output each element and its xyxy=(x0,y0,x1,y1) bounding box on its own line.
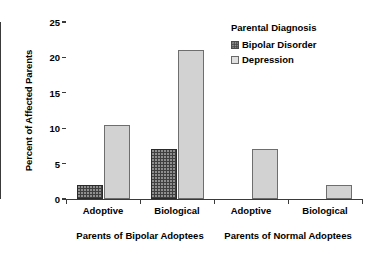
x-tick-mark xyxy=(66,199,67,204)
y-tick-label: 20 xyxy=(49,52,60,63)
bar xyxy=(326,185,352,199)
x-category-label: Adoptive xyxy=(231,205,272,216)
bar xyxy=(77,185,103,199)
x-category-label: Biological xyxy=(154,205,199,216)
legend-title: Parental Diagnosis xyxy=(231,22,381,33)
bar xyxy=(104,125,130,199)
bar xyxy=(151,149,177,199)
x-group-label: Parents of Normal Adoptees xyxy=(224,230,351,241)
x-category-label: Adoptive xyxy=(83,205,124,216)
y-tick-label: 25 xyxy=(49,17,60,28)
y-tick-label: 10 xyxy=(49,123,60,134)
bar xyxy=(252,149,278,199)
y-axis-title: Percent of Affected Parents xyxy=(23,21,34,201)
x-group-label: Parents of Bipolar Adoptees xyxy=(76,230,203,241)
bar xyxy=(178,50,204,199)
x-tick-mark xyxy=(214,199,215,204)
legend-item-label: Depression xyxy=(242,54,294,65)
x-tick-mark xyxy=(362,199,363,204)
legend-swatch-bipolar-icon xyxy=(231,41,239,49)
legend-item-label: Bipolar Disorder xyxy=(242,39,316,50)
y-tick-label: 0 xyxy=(55,194,60,205)
y-axis-line xyxy=(0,22,1,199)
y-tick-label: 5 xyxy=(55,158,60,169)
x-category-label: Biological xyxy=(302,205,347,216)
y-tick-label: 15 xyxy=(49,87,60,98)
legend-item: Bipolar Disorder xyxy=(231,39,381,50)
bar-chart: Percent of Affected Parents 2520151050 A… xyxy=(0,0,389,256)
legend-entries: Bipolar DisorderDepression xyxy=(231,39,381,65)
legend-swatch-depression-icon xyxy=(231,56,239,64)
legend: Parental Diagnosis Bipolar DisorderDepre… xyxy=(231,22,381,69)
legend-item: Depression xyxy=(231,54,381,65)
x-tick-mark xyxy=(288,199,289,204)
x-tick-mark xyxy=(140,199,141,204)
